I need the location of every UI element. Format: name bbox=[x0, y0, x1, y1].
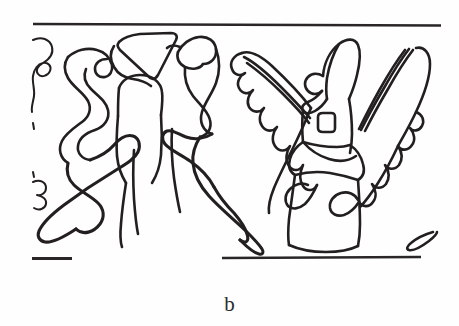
top-register-line bbox=[33, 24, 441, 26]
center-figure-head-crest bbox=[178, 37, 216, 64]
figure-caption-label: b bbox=[224, 294, 235, 315]
left-edge-scallop-lower bbox=[33, 181, 46, 210]
figure-panel: b bbox=[0, 0, 459, 326]
left-figure-inner-leg-line bbox=[120, 183, 126, 247]
right-wing-quill-1 bbox=[365, 50, 413, 131]
right-edge-motif bbox=[407, 232, 437, 250]
center-figure-leg-sweep-inner bbox=[214, 187, 248, 242]
right-figure-cap-brim bbox=[305, 74, 323, 94]
right-figure-right-wing bbox=[330, 48, 430, 216]
left-figure-neck-left bbox=[118, 88, 119, 116]
center-figure-head-lower bbox=[177, 52, 203, 69]
left-figure-upper-left-scroll bbox=[68, 49, 112, 77]
right-wing-inner-fold bbox=[360, 146, 398, 207]
right-figure-left-wing bbox=[231, 52, 317, 213]
right-edge-hook bbox=[407, 232, 437, 250]
left-edge-scallop-upper bbox=[32, 38, 53, 112]
left-figure-head bbox=[111, 46, 151, 86]
right-figure-square-eye bbox=[318, 113, 335, 132]
right-figure-face-left bbox=[302, 111, 303, 142]
right-figure-body bbox=[288, 142, 364, 252]
line-drawing-canvas bbox=[0, 0, 459, 285]
left-figure-torso-right bbox=[152, 115, 162, 183]
center-figure bbox=[163, 37, 263, 254]
right-figure-skirt-right bbox=[358, 180, 360, 246]
center-figure-leg-sweep bbox=[193, 137, 263, 254]
right-figure-skirt-hem bbox=[289, 245, 358, 252]
right-wing-lower-tip bbox=[330, 192, 359, 215]
left-figure-triangular-headdress bbox=[118, 33, 177, 79]
center-figure-lower-scroll bbox=[163, 131, 214, 187]
left-figure bbox=[38, 33, 177, 247]
figure-caption-row: b bbox=[0, 283, 459, 326]
left-figure-inner-leg-line-2 bbox=[133, 150, 138, 234]
left-figure-torso-left bbox=[117, 116, 126, 183]
left-figure-arm-ribbon-inner bbox=[78, 69, 109, 160]
right-figure-skirt-left bbox=[288, 175, 295, 245]
bottom-register-line-right bbox=[222, 257, 421, 258]
left-edge-tick-2 bbox=[33, 172, 34, 177]
right-figure-belt-fold bbox=[295, 172, 358, 180]
right-figure-head bbox=[302, 40, 360, 153]
center-figure-trailing-line bbox=[172, 129, 180, 212]
left-edge-tick bbox=[33, 123, 34, 129]
left-edge-motif bbox=[32, 38, 53, 209]
right-figure-shoulder-right bbox=[350, 145, 364, 180]
right-wing-quill-2 bbox=[361, 49, 409, 130]
right-figure-face-bottom bbox=[303, 142, 350, 147]
